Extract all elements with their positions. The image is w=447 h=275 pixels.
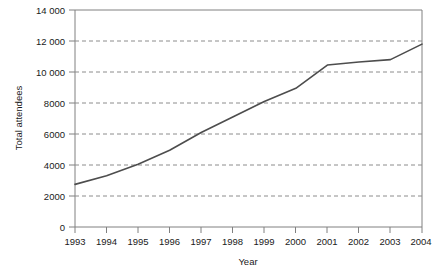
xtick-label-1993: 1993: [64, 236, 85, 247]
xtick-label-1994: 1994: [96, 236, 117, 247]
gridlines: [75, 41, 422, 196]
ytick-label-4000: 4000: [44, 160, 65, 171]
xtick-label-2002: 2002: [348, 236, 369, 247]
ytick-label-6000: 6000: [44, 129, 65, 140]
ytick-label-2000: 2000: [44, 191, 65, 202]
chart-container: 14 000 12 000 10 000 8000 6000 4000 2000…: [0, 0, 447, 275]
data-series-line: [75, 44, 422, 184]
x-axis-tick-labels: 1993 1994 1995 1996 1997 1998 1999 2000 …: [64, 236, 431, 247]
xtick-label-1998: 1998: [222, 236, 243, 247]
xtick-label-1997: 1997: [190, 236, 211, 247]
line-chart: 14 000 12 000 10 000 8000 6000 4000 2000…: [0, 0, 447, 275]
xtick-label-2000: 2000: [285, 236, 306, 247]
ytick-label-12000: 12 000: [36, 36, 65, 47]
ytick-label-14000: 14 000: [36, 5, 65, 16]
xtick-label-1995: 1995: [127, 236, 148, 247]
ytick-label-8000: 8000: [44, 98, 65, 109]
y-axis-title: Total attendees: [13, 86, 24, 151]
xtick-label-2003: 2003: [379, 236, 400, 247]
x-axis-title: Year: [238, 256, 257, 267]
ytick-label-10000: 10 000: [36, 67, 65, 78]
xtick-label-1999: 1999: [253, 236, 274, 247]
xtick-label-2001: 2001: [316, 236, 337, 247]
xtick-label-2004: 2004: [410, 236, 431, 247]
x-axis-ticks: [75, 227, 422, 233]
xtick-label-1996: 1996: [159, 236, 180, 247]
y-axis-tick-labels: 14 000 12 000 10 000 8000 6000 4000 2000…: [36, 5, 65, 233]
y-axis-ticks: [69, 10, 75, 227]
ytick-label-0: 0: [60, 222, 65, 233]
